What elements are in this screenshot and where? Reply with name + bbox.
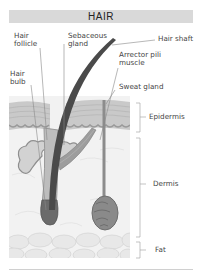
label-dermis: Dermis <box>153 180 179 188</box>
layer-brackets <box>136 103 146 258</box>
label-hair-shaft: Hair shaft <box>158 35 193 43</box>
sweat-gland-coil <box>92 196 118 230</box>
label-sebaceous-gland: Sebaceous gland <box>68 32 107 48</box>
label-arrector-pili-muscle: Arrector pili muscle <box>119 51 161 67</box>
label-hair-bulb: Hair bulb <box>10 70 26 86</box>
label-sweat-gland: Sweat gland <box>119 83 163 91</box>
bottom-divider <box>9 269 193 270</box>
label-epidermis: Epidermis <box>149 113 185 121</box>
label-fat: Fat <box>155 246 166 254</box>
label-hair-follicle: Hair follicle <box>14 32 37 48</box>
skin-block <box>4 96 138 261</box>
